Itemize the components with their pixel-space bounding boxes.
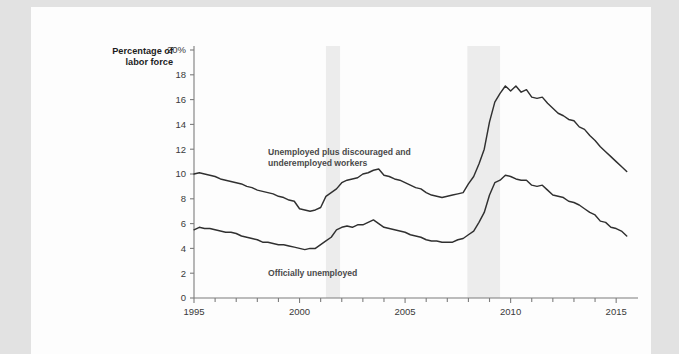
series-line-officially-unemployed (194, 175, 627, 249)
annotation-u6-line1: Unemployed plus discouraged and (268, 147, 411, 157)
y-tick-label: 0 (181, 292, 186, 303)
x-tick-label: 1995 (183, 306, 204, 317)
data-series-group (194, 86, 627, 250)
annotation-unemployed-plus-discouraged: Unemployed plus discouraged and underemp… (268, 147, 411, 168)
x-tick-label: 2015 (606, 306, 627, 317)
y-tick-label: 2 (181, 268, 186, 279)
y-axis-title-line1: Percentage of (112, 46, 174, 56)
x-tick-label: 2000 (289, 306, 310, 317)
x-axis-ticks: 19952000200520102015 (183, 298, 626, 317)
y-tick-label: 18 (175, 69, 186, 80)
y-tick-label: 4 (181, 243, 186, 254)
annotation-u3-label: Officially unemployed (268, 268, 357, 278)
y-tick-label: 14 (175, 119, 186, 130)
recession-shading-group (326, 46, 500, 298)
y-axis-title: Percentage of labor force (112, 46, 174, 67)
y-tick-label: 6 (181, 218, 186, 229)
recession-2008 (467, 46, 500, 298)
y-tick-label: 16 (175, 94, 186, 105)
recession-2001 (326, 46, 340, 298)
unemployment-line-chart: 02468101214161820% 19952000200520102015 … (31, 7, 651, 354)
chart-axes (194, 46, 638, 298)
chart-figure: 02468101214161820% 19952000200520102015 … (31, 7, 651, 354)
x-tick-label: 2010 (500, 306, 521, 317)
document-page: 02468101214161820% 19952000200520102015 … (31, 7, 651, 354)
y-tick-label: 12 (175, 144, 186, 155)
x-tick-label: 2005 (395, 306, 416, 317)
y-axis-ticks: 02468101214161820% (167, 44, 194, 303)
y-tick-label: 10 (175, 168, 186, 179)
annotation-officially-unemployed: Officially unemployed (268, 268, 357, 278)
y-axis-title-line2: labor force (126, 57, 173, 67)
y-tick-label: 8 (181, 193, 186, 204)
annotation-u6-line2: underemployed workers (268, 158, 368, 168)
